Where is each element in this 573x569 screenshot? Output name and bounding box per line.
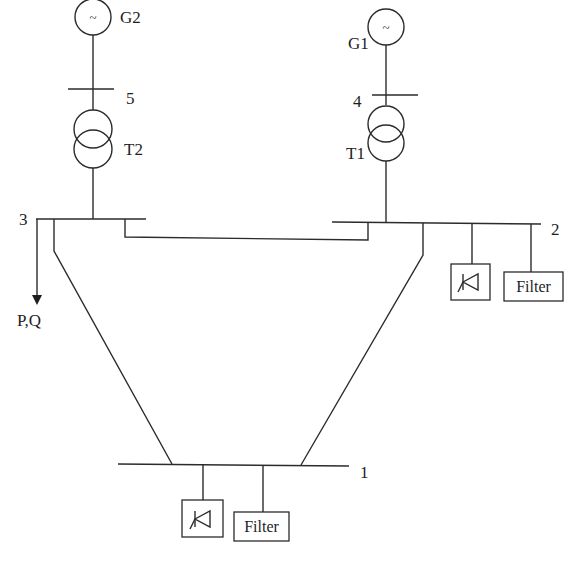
bus-4-label: 4 [353, 92, 362, 111]
bus1-filter-label: Filter [244, 518, 279, 535]
bus2-filter-label: Filter [516, 278, 551, 295]
transformer-t1-label: T1 [346, 144, 365, 163]
line-2-1 [301, 223, 423, 465]
bus1-converter-box [182, 500, 223, 537]
bus-3-label: 3 [19, 210, 28, 229]
bus-1-label: 1 [360, 463, 369, 482]
transformer-t2-label: T2 [124, 140, 143, 159]
ac-source-icon: ~ [382, 20, 389, 35]
transformer-t2-icon [74, 110, 112, 168]
line-3-1 [54, 219, 172, 464]
transformer-t1-icon [368, 106, 404, 161]
bus2-converter-box [451, 264, 490, 300]
line-3-2 [125, 219, 368, 240]
generator-g1-label: G1 [348, 34, 369, 53]
arrow-down-icon [32, 295, 42, 305]
generator-g2-label: G2 [120, 8, 141, 27]
bus-2-label: 2 [551, 220, 560, 239]
bus-5-label: 5 [126, 89, 135, 108]
bus-1 [118, 464, 349, 466]
bus-2 [332, 222, 541, 224]
load-label: P,Q [17, 311, 41, 330]
generator-g1: ~ [368, 9, 404, 45]
generator-g2: ~ [75, 0, 111, 35]
ac-source-icon: ~ [89, 10, 96, 25]
single-line-diagram: ~ G2 5 T2 3 P,Q ~ G1 4 T1 2 [0, 0, 573, 569]
